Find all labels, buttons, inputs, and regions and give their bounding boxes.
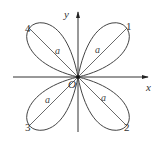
- origin-label: O: [68, 78, 76, 90]
- petal-3-number: 3: [25, 121, 31, 133]
- petal-2-length-label: a: [101, 92, 106, 103]
- y-axis-label: y: [63, 8, 69, 20]
- petal-4-number: 4: [25, 22, 31, 34]
- petal-3-length-label: a: [45, 94, 50, 105]
- origin-point: [76, 75, 80, 79]
- four-leaf-rose-diagram: x y O 1 2 3 4 a a a a: [0, 0, 165, 152]
- petal-1-number: 1: [126, 20, 132, 32]
- petal-2-number: 2: [124, 121, 130, 133]
- petal-4-length-label: a: [55, 45, 60, 56]
- petal-1-length-label: a: [95, 44, 100, 55]
- x-axis-label: x: [145, 81, 151, 93]
